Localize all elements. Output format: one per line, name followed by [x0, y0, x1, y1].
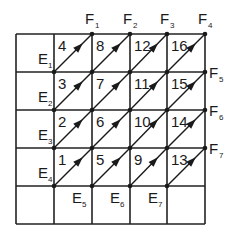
e-label-subscript: 1 [48, 61, 53, 70]
node-dot [52, 70, 57, 75]
f-label-subscript: 4 [208, 21, 213, 30]
cell-number: 13 [171, 151, 188, 168]
e-label-main: E [38, 126, 48, 143]
e-label-subscript: 2 [48, 99, 53, 108]
cell-number: 14 [171, 113, 188, 130]
f-label-main: F [123, 10, 132, 27]
f-label: F7 [209, 140, 224, 160]
f-label-main: F [209, 102, 218, 119]
cell-number: 1 [58, 151, 66, 168]
e-label: E2 [38, 88, 53, 108]
node-dot [52, 184, 57, 189]
node-dot [128, 32, 133, 37]
f-label-subscript: 2 [133, 21, 138, 30]
e-label: E4 [38, 164, 53, 184]
f-label: F3 [160, 10, 175, 30]
cell-number: 7 [96, 75, 104, 92]
f-label-subscript: 1 [95, 21, 100, 30]
node-dot [165, 32, 170, 37]
node-dot [90, 146, 95, 151]
node-dot [165, 108, 170, 113]
e-label-subscript: 5 [82, 200, 87, 209]
cell-number: 12 [134, 37, 151, 54]
node-dot [165, 184, 170, 189]
f-label: F1 [85, 10, 100, 30]
node-dot [128, 146, 133, 151]
cell-number: 16 [171, 37, 188, 54]
e-label-main: E [110, 189, 120, 206]
e-label-subscript: 6 [120, 200, 125, 209]
e-label: E3 [38, 126, 53, 146]
node-dot [90, 70, 95, 75]
e-label-subscript: 4 [48, 175, 53, 184]
f-label-main: F [160, 10, 169, 27]
e-label-main: E [38, 50, 48, 67]
cell-number: 8 [96, 37, 104, 54]
node-dot [128, 184, 133, 189]
node-dot [90, 184, 95, 189]
f-label: F4 [198, 10, 213, 30]
cell-number: 6 [96, 113, 104, 130]
cell-number: 5 [96, 151, 104, 168]
f-label-main: F [85, 10, 94, 27]
f-label: F6 [209, 102, 224, 122]
f-label-subscript: 5 [219, 75, 224, 84]
node-dot [165, 146, 170, 151]
f-label: F5 [209, 64, 224, 84]
f-label-subscript: 6 [219, 113, 224, 122]
e-label: E1 [38, 50, 53, 70]
cell-number: 3 [58, 75, 66, 92]
f-label-main: F [209, 64, 218, 81]
f-label-main: F [198, 10, 207, 27]
node-dot [90, 32, 95, 37]
e-label-main: E [72, 189, 82, 206]
cell-number: 4 [58, 37, 66, 54]
cell-number: 15 [171, 75, 188, 92]
f-label-main: F [209, 140, 218, 157]
node-dot [90, 108, 95, 113]
node-dot [203, 70, 208, 75]
node-dot [128, 70, 133, 75]
node-dot [203, 108, 208, 113]
node-dot [52, 108, 57, 113]
cell-number: 9 [134, 151, 142, 168]
e-label-subscript: 3 [48, 137, 53, 146]
e-label-main: E [38, 164, 48, 181]
e-label-main: E [148, 189, 158, 206]
node-dot [203, 32, 208, 37]
cell-number: 11 [134, 75, 150, 92]
f-label: F2 [123, 10, 138, 30]
grid-diagram: 48121637111526101415913 F1F2F3F4F5F6F7 E… [0, 0, 233, 238]
cell-number: 10 [134, 113, 151, 130]
node-dot [52, 146, 57, 151]
cell-number: 2 [58, 113, 66, 130]
node-dot [165, 70, 170, 75]
node-dot [128, 108, 133, 113]
f-label-subscript: 7 [219, 151, 224, 160]
node-dot [203, 146, 208, 151]
e-label: E6 [110, 189, 125, 209]
e-label: E7 [148, 189, 163, 209]
f-label-subscript: 3 [170, 21, 175, 30]
e-label: E5 [72, 189, 87, 209]
e-label-main: E [38, 88, 48, 105]
e-label-subscript: 7 [158, 200, 163, 209]
